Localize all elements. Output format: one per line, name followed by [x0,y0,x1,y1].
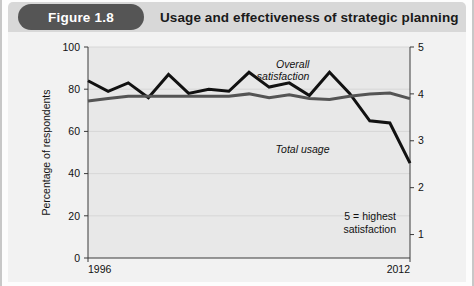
y2-axis-tick-label: 2 [418,181,424,193]
chart-note: 5 = highestsatisfaction [343,210,396,235]
figure-root: Figure 1.8 Usage and effectiveness of st… [0,0,474,286]
y-axis-tick-label: 80 [68,83,80,95]
y2-axis-tick-label: 1 [418,228,424,240]
y-axis-title: Percentage of respondents [40,89,52,215]
y2-axis-tick-label: 4 [418,88,424,100]
y2-axis-tick-label: 5 [418,41,424,53]
chart-panel: 0204060801001234519962012Percentage of r… [8,32,466,282]
y-axis-tick-label: 100 [62,41,80,53]
figure-title: Usage and effectiveness of strategic pla… [160,2,459,32]
y2-axis-tick-label: 3 [418,134,424,146]
y-axis-tick-label: 60 [68,125,80,137]
scale-note: 5 = highestsatisfaction [343,210,396,235]
y-axis-tick-label: 20 [68,210,80,222]
x-axis-tick-label: 2012 [387,263,411,275]
y-axis-tick-label: 0 [74,252,80,264]
x-axis-tick-label: 1996 [88,263,112,275]
figure-header: Figure 1.8 Usage and effectiveness of st… [8,2,466,32]
line-chart: 0204060801001234519962012Percentage of r… [8,32,466,282]
y-axis-tick-label: 40 [68,167,80,179]
series-label-total-usage: Total usage [276,143,330,155]
page-edge-left [0,0,2,286]
figure-number-badge: Figure 1.8 [18,4,144,30]
